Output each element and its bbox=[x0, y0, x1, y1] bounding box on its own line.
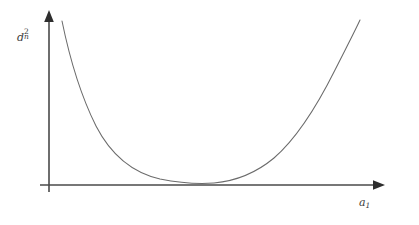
y-axis-label-subscript: n bbox=[24, 33, 29, 41]
plot-canvas bbox=[0, 0, 419, 225]
y-axis-label-scripts: 2n bbox=[24, 30, 30, 41]
y-axis-arrow-icon bbox=[44, 10, 54, 22]
y-axis-label-base: d bbox=[17, 31, 24, 44]
y-axis-label: d2n bbox=[17, 30, 30, 43]
x-axis-arrow-icon bbox=[373, 180, 385, 190]
figure-container: d2n a1 bbox=[0, 0, 419, 225]
x-axis-label: a1 bbox=[359, 197, 370, 210]
x-axis-label-subscript: 1 bbox=[366, 201, 371, 210]
data-curve-series-0 bbox=[62, 20, 360, 183]
